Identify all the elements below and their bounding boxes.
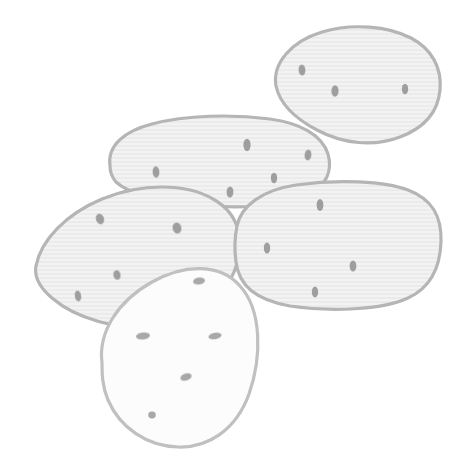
potatoes-illustration	[0, 0, 475, 468]
potato-right-eye-2	[264, 242, 270, 253]
potato-top-right-eye-3	[402, 84, 408, 94]
illustration-canvas	[0, 0, 475, 468]
potato-right	[235, 182, 441, 310]
potato-right-eye-4	[312, 287, 318, 298]
potato-right-eye-1	[317, 199, 324, 211]
potato-front-bottom-eye-5	[148, 412, 156, 419]
potato-right-eye-3	[350, 260, 357, 271]
potato-upper-middle-eye-4	[271, 173, 277, 183]
potato-upper-middle-eye-3	[243, 139, 250, 151]
